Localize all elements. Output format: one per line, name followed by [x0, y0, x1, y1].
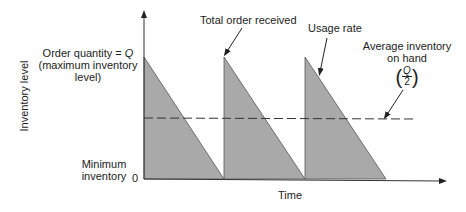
- avg-fraction: ( Q 2 ): [395, 66, 418, 87]
- avg-label-line2: on hand: [352, 52, 462, 64]
- zero-label: 0: [132, 172, 138, 184]
- inventory-sawtooth-diagram: [0, 0, 466, 212]
- min-label-line1: Minimum: [76, 158, 132, 170]
- x-axis-label: Time: [278, 189, 302, 201]
- max-label-q: Q: [125, 47, 134, 59]
- max-inventory-label: Order quantity = Q (maximum inventory le…: [36, 47, 140, 83]
- min-label-line2: inventory: [76, 170, 132, 182]
- max-label-line2: (maximum inventory: [36, 59, 140, 71]
- usage-rate-annotation: Usage rate: [308, 22, 362, 34]
- usage-rate-arrow: [320, 38, 327, 72]
- average-inventory-arrow: [386, 90, 403, 116]
- min-inventory-label: Minimum inventory: [76, 158, 132, 182]
- max-label-line1: Order quantity =: [43, 47, 125, 59]
- average-inventory-annotation: Average inventory on hand ( Q 2 ): [352, 40, 462, 87]
- avg-label-line1: Average inventory: [352, 40, 462, 52]
- order-received-arrow: [226, 28, 242, 53]
- max-label-line3: level): [36, 71, 140, 83]
- avg-fraction-den: 2: [402, 77, 412, 87]
- order-received-annotation: Total order received: [200, 14, 297, 26]
- y-axis-label: Inventory level: [18, 56, 30, 136]
